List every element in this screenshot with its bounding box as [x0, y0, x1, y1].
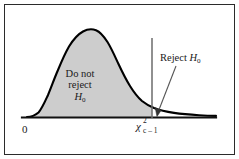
- do-not-reject-line-1: Do not: [50, 68, 110, 79]
- chi-symbol: χ: [136, 120, 141, 132]
- null-hypothesis-symbol: H: [74, 91, 82, 102]
- reject-leader-line: [159, 66, 177, 111]
- reject-null-hypothesis-subscript: 0: [197, 57, 201, 65]
- do-not-reject-label: Do not reject H0: [50, 68, 110, 105]
- chi-exponent: 2: [143, 117, 147, 125]
- do-not-reject-line-2: reject: [50, 79, 110, 90]
- reject-null-hypothesis-symbol: H: [189, 52, 197, 63]
- do-not-reject-line-3: H0: [50, 91, 110, 105]
- chi-square-figure: Do not reject H0 Reject H0 0 χ2c – 1: [0, 0, 239, 159]
- distribution-plot: [0, 0, 239, 159]
- origin-tick-label: 0: [22, 124, 28, 136]
- critical-value-tick-label: χ2c – 1: [136, 121, 141, 133]
- reject-label: Reject H0: [160, 52, 201, 66]
- reject-label-text: Reject: [160, 52, 189, 63]
- chi-square-symbol-group: χ2c – 1: [136, 121, 141, 133]
- chi-degrees-of-freedom: c – 1: [143, 127, 158, 135]
- null-hypothesis-subscript: 0: [82, 96, 86, 104]
